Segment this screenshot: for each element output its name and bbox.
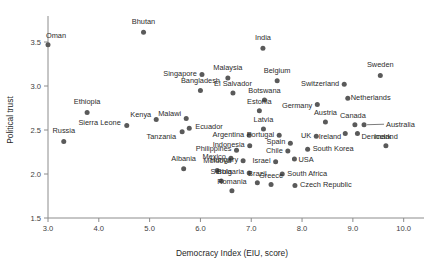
- data-point[interactable]: [260, 46, 265, 51]
- x-tick-label: 7.0: [246, 224, 257, 233]
- data-point-label: Latvia: [254, 115, 275, 124]
- y-tick-label: 2.0: [30, 170, 41, 179]
- data-point[interactable]: [288, 141, 293, 146]
- data-point-label: Bulgaria: [217, 167, 245, 176]
- data-point[interactable]: [247, 143, 252, 148]
- data-point[interactable]: [343, 131, 348, 136]
- data-point-label: Germany: [282, 101, 313, 110]
- data-point-label: Switzerland: [301, 79, 339, 88]
- data-point-label: Canada: [340, 111, 367, 120]
- y-tick-label: 2.5: [30, 126, 41, 135]
- data-point-label: Netherlands: [351, 93, 391, 102]
- data-point[interactable]: [255, 180, 260, 185]
- data-point[interactable]: [273, 159, 278, 164]
- y-axis-title: Political trust: [5, 96, 15, 144]
- data-point-label: Malaysia: [213, 63, 243, 72]
- y-tick-label: 3.5: [30, 38, 41, 47]
- data-point[interactable]: [141, 30, 146, 35]
- x-tick-label: 8.0: [297, 224, 308, 233]
- data-point[interactable]: [85, 110, 90, 115]
- data-point-label: Albania: [171, 154, 197, 163]
- data-point-label: Kenya: [130, 110, 152, 119]
- data-point-label: Spain: [266, 137, 285, 146]
- data-point-label: Estonia: [247, 97, 273, 106]
- data-point[interactable]: [241, 158, 246, 163]
- data-point[interactable]: [230, 91, 235, 96]
- data-point[interactable]: [61, 139, 66, 144]
- data-point-label: Belgium: [264, 66, 291, 75]
- data-point[interactable]: [323, 120, 328, 125]
- data-point-label: Iceland: [374, 132, 398, 141]
- x-tick-label: 4.0: [94, 224, 105, 233]
- data-point[interactable]: [184, 116, 189, 121]
- data-point-label: UK: [301, 131, 311, 140]
- data-point[interactable]: [362, 122, 367, 127]
- data-point-label: El Salvador: [214, 79, 252, 88]
- y-tick-labels: 1.52.02.53.03.5: [30, 38, 41, 223]
- data-point[interactable]: [305, 147, 310, 152]
- y-tick-label: 3.0: [30, 82, 41, 91]
- data-point[interactable]: [198, 88, 203, 93]
- data-point[interactable]: [345, 96, 350, 101]
- data-point[interactable]: [285, 149, 290, 154]
- data-point-label: Ethiopia: [74, 97, 102, 106]
- data-point-label: Tanzania: [147, 132, 177, 141]
- x-tick-label: 6.0: [195, 224, 206, 233]
- data-point[interactable]: [46, 42, 51, 47]
- data-point[interactable]: [378, 73, 383, 78]
- data-point-label: India: [255, 33, 272, 42]
- data-point-label: South Korea: [313, 144, 355, 153]
- data-point[interactable]: [342, 82, 347, 87]
- data-point-label: Chile: [266, 146, 283, 155]
- data-point[interactable]: [124, 123, 129, 128]
- data-point-label: Botswana: [248, 86, 281, 95]
- label-leader-line: [367, 124, 384, 125]
- data-point-label: Russia: [52, 126, 75, 135]
- y-tick-label: 1.5: [30, 214, 41, 223]
- data-point-label: Malawi: [158, 109, 181, 118]
- x-tick-label: 3.0: [43, 224, 54, 233]
- data-point-label: Argentina: [213, 130, 246, 139]
- data-point[interactable]: [154, 117, 159, 122]
- data-point-label: Romania: [217, 177, 247, 186]
- data-point-label: Bhutan: [132, 17, 155, 26]
- x-tick-label: 9.0: [348, 224, 359, 233]
- data-point[interactable]: [275, 78, 280, 83]
- data-point[interactable]: [181, 166, 186, 171]
- data-point-label: Ireland: [319, 132, 342, 141]
- data-point-label: Austria: [314, 108, 338, 117]
- data-point[interactable]: [315, 102, 320, 107]
- point-labels-group: OmanRussiaEthiopiaBhutanSierra LeoneAlba…: [46, 17, 416, 189]
- data-point-label: Czech Republic: [300, 180, 352, 189]
- data-point-label: USA: [298, 155, 313, 164]
- data-point-label: Hungary: [210, 155, 238, 164]
- x-tick-labels: 3.04.05.06.07.08.09.010.0: [43, 224, 411, 233]
- data-point-label: Israel: [253, 156, 271, 165]
- scatter-chart: 3.04.05.06.07.08.09.010.0 1.52.02.53.03.…: [0, 0, 430, 267]
- data-point-label: Indonesia: [213, 140, 246, 149]
- data-point[interactable]: [352, 122, 357, 127]
- x-axis-title: Democracy Index (EIU, score): [176, 248, 288, 258]
- data-point-label: Sierra Leone: [78, 118, 120, 127]
- data-point[interactable]: [257, 108, 262, 113]
- data-point-label: South Africa: [287, 169, 328, 178]
- data-point[interactable]: [180, 129, 185, 134]
- data-point[interactable]: [292, 157, 297, 162]
- data-point-label: Greece: [259, 171, 283, 180]
- x-tick-label: 10.0: [396, 224, 411, 233]
- data-point[interactable]: [355, 131, 360, 136]
- data-point-label: Oman: [46, 31, 66, 40]
- data-point-label: Australia: [386, 120, 416, 129]
- data-point[interactable]: [292, 183, 297, 188]
- data-point-label: Sweden: [367, 60, 394, 69]
- data-point[interactable]: [229, 188, 234, 193]
- data-point[interactable]: [269, 182, 274, 187]
- chart-canvas: 3.04.05.06.07.08.09.010.0 1.52.02.53.03.…: [0, 0, 430, 267]
- data-point[interactable]: [187, 126, 192, 131]
- x-tick-label: 5.0: [144, 224, 155, 233]
- data-point[interactable]: [383, 143, 388, 148]
